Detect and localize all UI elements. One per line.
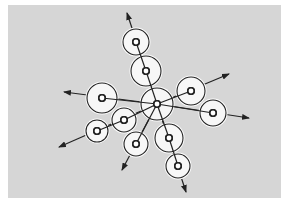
nodes — [85, 28, 228, 180]
radial-diagram — [0, 0, 287, 204]
